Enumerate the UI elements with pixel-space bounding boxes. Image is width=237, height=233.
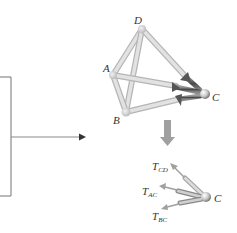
- truss-diagram: D A B C C TCD TAC TBC: [0, 0, 237, 233]
- joint-C: [200, 89, 210, 99]
- label-B: B: [113, 114, 120, 126]
- label-A: A: [102, 62, 110, 74]
- fbd-label-C: C: [214, 192, 222, 204]
- truss-members: [113, 29, 186, 112]
- fbd-joint-C: [201, 192, 211, 202]
- label-D: D: [133, 14, 142, 26]
- joint-D: [138, 25, 146, 33]
- force-label-TCD: TCD: [152, 160, 168, 174]
- joint-B: [122, 108, 131, 117]
- force-label-TAC: TAC: [142, 185, 157, 199]
- connector-arrow: [11, 134, 86, 141]
- down-arrow-icon: [160, 120, 175, 146]
- bracket: [0, 77, 11, 196]
- joint-A: [109, 71, 117, 79]
- force-label-TBC: TBC: [152, 210, 167, 224]
- label-C: C: [212, 91, 220, 103]
